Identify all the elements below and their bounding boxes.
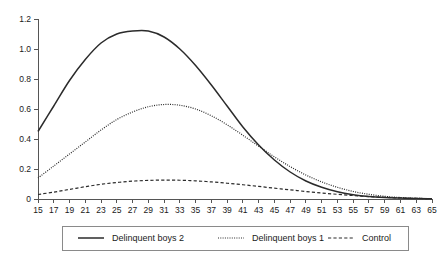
x-tick-label: 33 [175, 205, 185, 215]
chart-legend: Delinquent boys 2Delinquent boys 1Contro… [63, 227, 409, 251]
x-tick-label: 45 [270, 205, 280, 215]
legend-label: Control [362, 233, 391, 243]
x-tick-label: 43 [254, 205, 264, 215]
y-tick-label: 0.6 [19, 104, 31, 114]
line-chart: 00.20.40.60.81.01.2 15171921232527293133… [0, 0, 445, 266]
x-tick-label: 49 [301, 205, 311, 215]
series-container [38, 30, 432, 198]
x-tick-label: 27 [128, 205, 138, 215]
y-tick-label: 0.2 [19, 164, 31, 174]
x-tick-label: 39 [222, 205, 232, 215]
y-axis: 00.20.40.60.81.01.2 [19, 14, 38, 204]
x-tick-label: 53 [333, 205, 343, 215]
series-line-solid [38, 30, 432, 198]
y-tick-label: 1.2 [19, 14, 31, 24]
x-tick-label: 35 [191, 205, 201, 215]
x-tick-label: 61 [396, 205, 406, 215]
x-tick-label: 21 [81, 205, 91, 215]
x-tick-label: 15 [33, 205, 43, 215]
x-tick-label: 59 [380, 205, 390, 215]
y-tick-label: 0.4 [19, 134, 31, 144]
x-tick-label: 29 [144, 205, 154, 215]
x-axis: 1517192123252729313335373941434547495153… [33, 199, 437, 215]
x-tick-label: 55 [348, 205, 358, 215]
y-tick-label: 0.8 [19, 74, 31, 84]
x-tick-label: 65 [427, 205, 437, 215]
x-tick-label: 31 [159, 205, 169, 215]
y-tick-label: 0 [26, 194, 31, 204]
x-tick-label: 23 [96, 205, 106, 215]
x-tick-label: 41 [238, 205, 248, 215]
y-tick-label: 1.0 [19, 44, 31, 54]
chart-figure: 00.20.40.60.81.01.2 15171921232527293133… [0, 0, 445, 266]
x-tick-label: 51 [317, 205, 327, 215]
x-tick-label: 57 [364, 205, 374, 215]
x-tick-label: 17 [49, 205, 59, 215]
x-tick-label: 37 [207, 205, 217, 215]
legend-label: Delinquent boys 2 [112, 233, 184, 243]
x-tick-label: 47 [285, 205, 295, 215]
x-tick-label: 25 [112, 205, 122, 215]
legend-label: Delinquent boys 1 [252, 233, 324, 243]
x-tick-label: 19 [65, 205, 75, 215]
series-line-dashed [38, 180, 432, 199]
x-tick-label: 63 [412, 205, 422, 215]
